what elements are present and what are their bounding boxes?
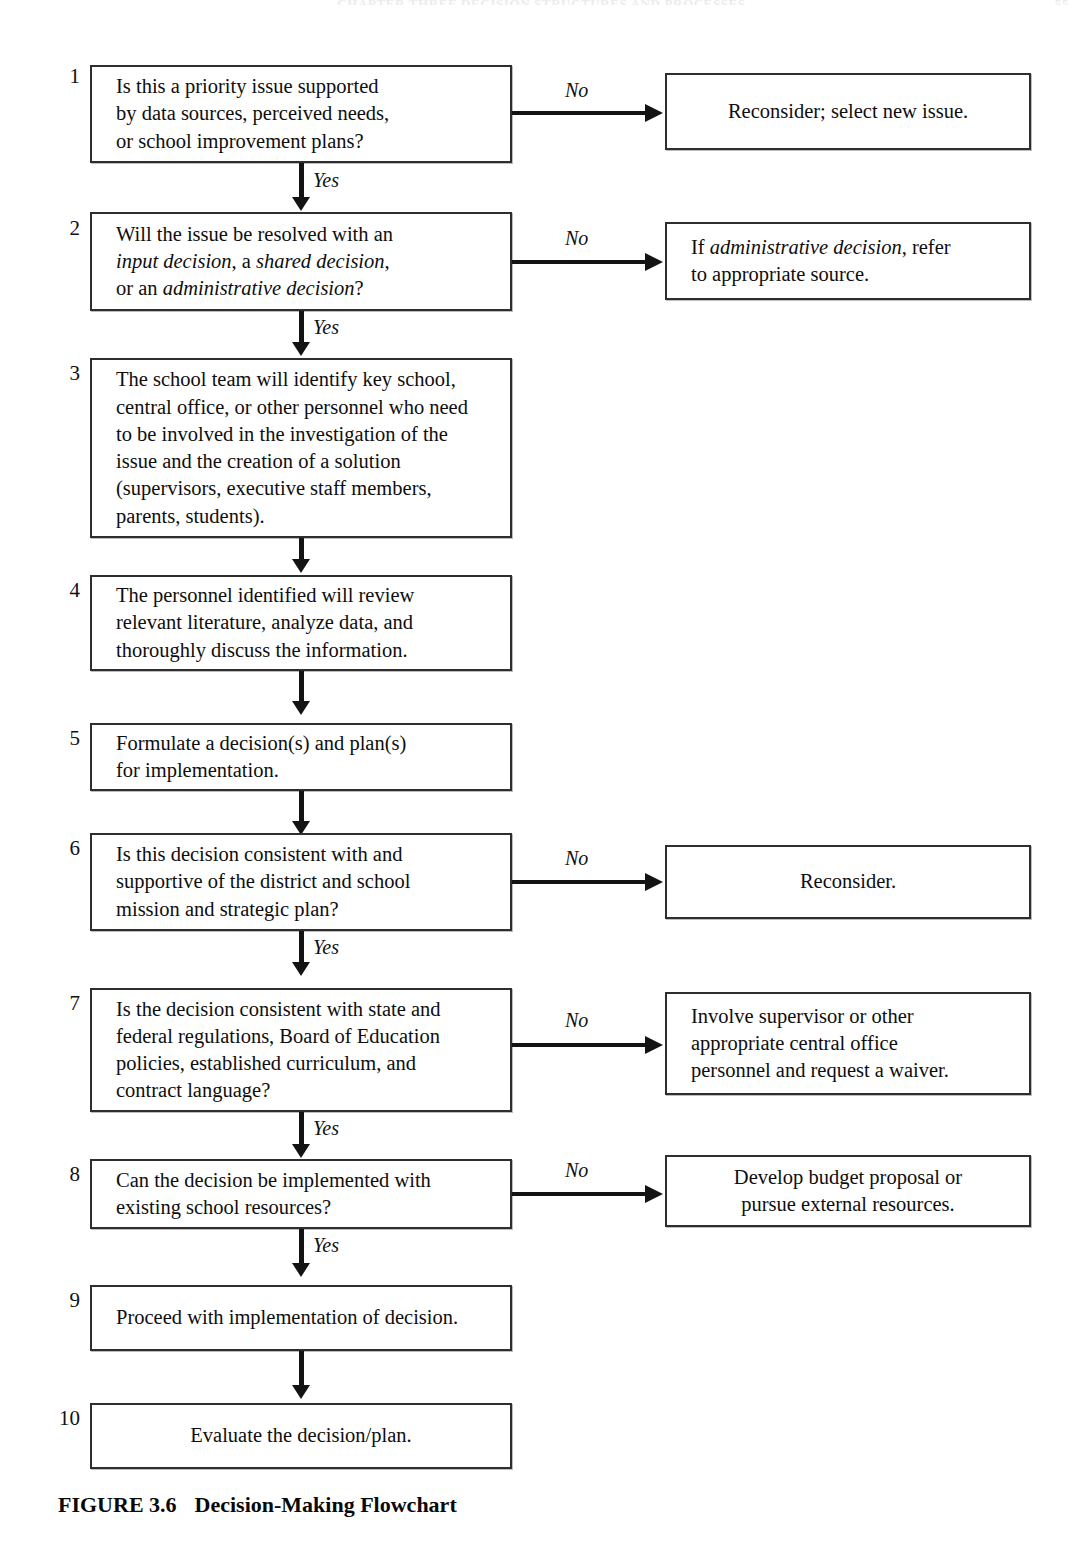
step-number-10: 10 [42,1408,80,1429]
step-2-emphasis-2: shared decision [256,250,385,272]
step-number-8: 8 [46,1164,80,1185]
step-number-7: 7 [46,993,80,1014]
outcome-5-line-1: Develop budget proposal or [734,1166,962,1188]
step-box-2-text: Will the issue be resolved with an input… [92,221,510,303]
yes-arrowhead-step-6-to-7 [292,962,310,976]
step-box-6[interactable]: Is this decision consistent with and sup… [90,833,512,931]
step-number-4: 4 [46,580,80,601]
yes-arrow-step-2-to-3 [299,311,304,344]
arrow-step-9-to-10 [299,1351,304,1387]
edge-label-yes-2: Yes [313,317,339,337]
yes-arrowhead-step-2-to-3 [292,342,310,356]
no-arrowhead-from-step-2 [645,253,663,271]
step-5-line-2: for implementation. [116,759,279,781]
outcome-5-line-2: pursue external resources. [741,1193,954,1215]
step-box-3-text: The school team will identify key school… [92,366,510,530]
no-arrowhead-from-step-7 [645,1036,663,1054]
edge-label-no-6: No [565,848,588,868]
step-number-1: 1 [46,66,80,87]
step-2-line-2-mid: , a [232,250,256,272]
edge-label-no-8: No [565,1160,588,1180]
outcome-box-5-text: Develop budget proposal or pursue extern… [667,1164,1029,1219]
step-box-2[interactable]: Will the issue be resolved with an input… [90,212,512,311]
outcome-box-1-text: Reconsider; select new issue. [667,98,1029,125]
outcome-2-line-1-pre: If [691,236,710,258]
step-box-7-text: Is the decision consistent with state an… [92,996,510,1105]
arrow-step-5-to-6 [299,791,304,823]
step-6-line-2: supportive of the district and school [116,870,410,892]
step-5-line-1: Formulate a decision(s) and plan(s) [116,732,406,754]
yes-arrow-step-8-to-9 [299,1229,304,1265]
step-3-line-6: parents, students). [116,505,265,527]
outcome-box-2-text: If administrative decision, refer to app… [667,234,1029,289]
step-2-emphasis-1: input decision [116,250,232,272]
outcome-2-line-2: to appropriate source. [691,263,869,285]
step-number-2: 2 [46,218,80,239]
yes-arrow-step-1-to-2 [299,163,304,199]
step-box-7[interactable]: Is the decision consistent with state an… [90,988,512,1112]
arrowhead-step-4-to-5 [292,701,310,715]
step-7-line-2: federal regulations, Board of Education [116,1025,440,1047]
edge-label-yes-7: Yes [313,1118,339,1138]
step-2-emphasis-3: administrative decision [163,277,355,299]
step-6-line-3: mission and strategic plan? [116,898,339,920]
edge-label-no-2: No [565,228,588,248]
outcome-box-3[interactable]: Reconsider. [665,845,1031,919]
outcome-4-line-1: Involve supervisor or other [691,1005,914,1027]
arrow-step-3-to-4 [299,538,304,561]
arrowhead-step-3-to-4 [292,559,310,573]
step-box-9-text: Proceed with implementation of decision. [92,1304,510,1331]
step-4-line-2: relevant literature, analyze data, and [116,611,413,633]
outcome-2-emphasis: administrative decision [710,236,902,258]
step-7-line-1: Is the decision consistent with state an… [116,998,441,1020]
edge-label-yes-6: Yes [313,937,339,957]
outcome-box-4-text: Involve supervisor or other appropriate … [667,1003,1029,1085]
step-8-line-2: existing school resources? [116,1196,331,1218]
step-box-8-text: Can the decision be implemented with exi… [92,1167,510,1222]
arrow-step-4-to-5 [299,671,304,703]
step-box-1[interactable]: Is this a priority issue supported by da… [90,65,512,163]
step-box-5-text: Formulate a decision(s) and plan(s) for … [92,730,510,785]
step-3-line-5: (supervisors, executive staff members, [116,477,432,499]
decision-making-flowchart: 1 Is this a priority issue supported by … [0,0,1083,1551]
no-arrow-from-step-2 [512,260,648,264]
yes-arrowhead-step-8-to-9 [292,1263,310,1277]
step-1-line-2: by data sources, perceived needs, [116,102,389,124]
step-box-4[interactable]: The personnel identified will review rel… [90,575,512,671]
outcome-box-5[interactable]: Develop budget proposal or pursue extern… [665,1155,1031,1227]
no-arrow-from-step-7 [512,1043,648,1047]
step-3-line-3: to be involved in the investigation of t… [116,423,448,445]
step-number-5: 5 [46,728,80,749]
step-3-line-1: The school team will identify key school… [116,368,456,390]
figure-title: Decision-Making Flowchart [195,1492,457,1517]
step-box-10[interactable]: Evaluate the decision/plan. [90,1403,512,1469]
edge-label-yes-8: Yes [313,1235,339,1255]
outcome-box-2[interactable]: If administrative decision, refer to app… [665,222,1031,300]
outcome-box-1[interactable]: Reconsider; select new issue. [665,73,1031,150]
step-box-8[interactable]: Can the decision be implemented with exi… [90,1159,512,1229]
step-2-line-1: Will the issue be resolved with an [116,223,393,245]
figure-caption: FIGURE 3.6Decision-Making Flowchart [58,1492,457,1518]
step-box-5[interactable]: Formulate a decision(s) and plan(s) for … [90,723,512,791]
step-7-line-4: contract language? [116,1079,270,1101]
step-3-line-2: central office, or other personnel who n… [116,396,468,418]
outcome-4-line-2: appropriate central office [691,1032,898,1054]
yes-arrow-step-7-to-8 [299,1112,304,1146]
step-box-3[interactable]: The school team will identify key school… [90,358,512,538]
step-number-9: 9 [46,1290,80,1311]
step-box-1-text: Is this a priority issue supported by da… [92,73,510,155]
step-7-line-3: policies, established curriculum, and [116,1052,416,1074]
no-arrowhead-from-step-6 [645,873,663,891]
outcome-box-4[interactable]: Involve supervisor or other appropriate … [665,992,1031,1095]
step-3-line-4: issue and the creation of a solution [116,450,401,472]
edge-label-yes-1: Yes [313,170,339,190]
step-box-9[interactable]: Proceed with implementation of decision. [90,1285,512,1351]
yes-arrowhead-step-1-to-2 [292,197,310,211]
step-4-line-1: The personnel identified will review [116,584,414,606]
step-box-10-text: Evaluate the decision/plan. [92,1422,510,1449]
no-arrow-from-step-8 [512,1192,648,1196]
step-2-line-3-post: ? [355,277,364,299]
step-2-line-2-post: , [385,250,390,272]
outcome-4-line-3: personnel and request a waiver. [691,1059,949,1081]
outcome-box-3-text: Reconsider. [667,868,1029,895]
